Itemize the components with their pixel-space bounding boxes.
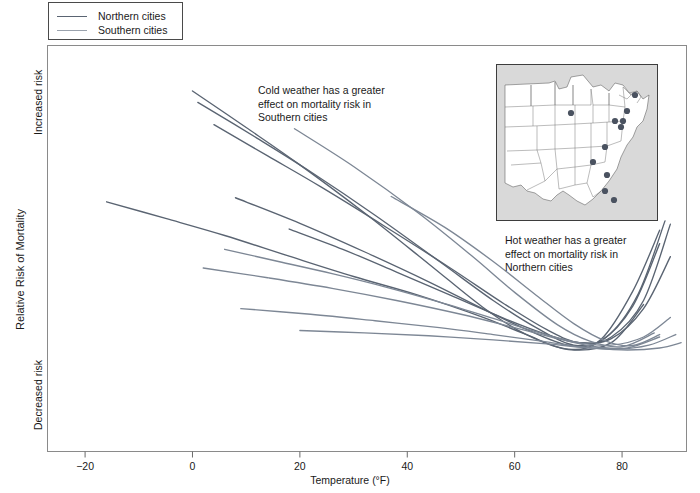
x-tick-label: 20 bbox=[280, 460, 320, 472]
us-map-svg bbox=[497, 65, 657, 220]
x-tick-label: 40 bbox=[387, 460, 427, 472]
legend-label-northern: Northern cities bbox=[98, 10, 166, 22]
hot-weather-annotation: Hot weather has a greater effect on mort… bbox=[505, 234, 685, 275]
legend-swatch-northern bbox=[57, 16, 87, 17]
x-tick-label: 0 bbox=[172, 460, 212, 472]
x-tick-label: 60 bbox=[495, 460, 535, 472]
x-axis-title: Temperature (°F) bbox=[0, 474, 700, 486]
city-dot bbox=[612, 118, 618, 124]
city-dot bbox=[611, 197, 617, 203]
legend-label-southern: Southern cities bbox=[98, 24, 167, 36]
y-label-decreased-risk: Decreased risk bbox=[32, 360, 44, 430]
city-dot bbox=[568, 110, 574, 116]
x-axis-ticks bbox=[85, 452, 622, 458]
x-tick-label: 80 bbox=[602, 460, 642, 472]
city-dot bbox=[590, 159, 596, 165]
city-dot bbox=[618, 124, 624, 130]
y-label-increased-risk: Increased risk bbox=[32, 70, 44, 135]
legend-item-northern: Northern cities bbox=[57, 9, 166, 23]
city-dot bbox=[624, 108, 630, 114]
legend-swatch-southern bbox=[57, 30, 87, 31]
legend: Northern cities Southern cities bbox=[48, 2, 183, 40]
city-dot bbox=[602, 144, 608, 150]
us-map-inset bbox=[496, 64, 658, 221]
cold-weather-annotation: Cold weather has a greater effect on mor… bbox=[258, 84, 448, 125]
city-dot bbox=[620, 118, 626, 124]
mortality-temperature-figure: Northern cities Southern cities Cold wea… bbox=[0, 0, 700, 493]
y-axis-title: Relative Risk of Mortality bbox=[14, 209, 26, 330]
city-dot bbox=[632, 92, 638, 98]
legend-item-southern: Southern cities bbox=[57, 23, 167, 37]
city-dot bbox=[604, 172, 610, 178]
city-dot bbox=[602, 188, 608, 194]
x-tick-label: −20 bbox=[65, 460, 105, 472]
